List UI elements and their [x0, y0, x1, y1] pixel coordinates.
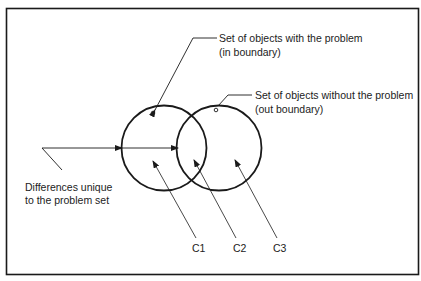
non-problem-set-circle [177, 106, 262, 191]
in-boundary-leader [155, 38, 217, 110]
differences-label-line1: Differences unique [25, 181, 113, 193]
in-set-label-line1: Set of objects with the problem [219, 32, 363, 44]
object-marker-out [214, 108, 218, 112]
c3-label: C3 [273, 242, 287, 254]
differences-leader-diagonal [42, 148, 62, 170]
c1-arrow [153, 161, 196, 238]
out-set-label-line2: (out boundary) [255, 103, 323, 115]
out-boundary-leader [218, 95, 252, 106]
venn-diagram: Set of objects with the problem (in boun… [0, 0, 421, 281]
c2-label: C2 [233, 242, 247, 254]
diagram-frame [7, 9, 419, 275]
c2-arrow [194, 160, 236, 238]
c1-label: C1 [192, 242, 206, 254]
out-set-label-line1: Set of objects without the problem [255, 89, 413, 101]
differences-label-line2: to the problem set [25, 194, 109, 206]
in-set-label-line2: (in boundary) [219, 46, 281, 58]
object-marker-in [151, 111, 155, 115]
c3-arrow [235, 160, 277, 238]
